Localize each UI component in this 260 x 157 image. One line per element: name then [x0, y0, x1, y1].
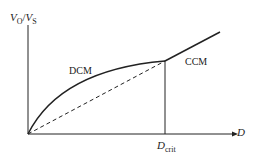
dcm-label: DCM — [69, 65, 92, 76]
dashed-reference-line — [28, 61, 165, 134]
x-axis-label: D — [237, 126, 245, 138]
dcrit-label: Dcrit — [157, 139, 176, 154]
diagram-canvas — [0, 0, 260, 157]
y-axis-label: VO/VS — [10, 11, 37, 26]
ccm-label: CCM — [185, 56, 207, 67]
